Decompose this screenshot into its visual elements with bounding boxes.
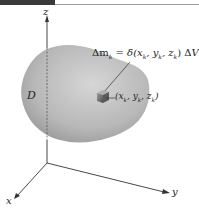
x-axis — [17, 163, 47, 196]
pt-part: ) — [155, 91, 159, 101]
mass-element-equation: Δmk = δ(xk, yk, zk) ΔV — [92, 47, 199, 60]
pt-part: , y — [127, 91, 138, 101]
eq-sub: k — [109, 53, 113, 60]
eq-delta-m: Δm — [92, 47, 109, 58]
y-axis — [47, 163, 164, 192]
region-label: D — [27, 89, 36, 102]
x-axis-label: x — [6, 195, 12, 206]
pt-part: , z — [141, 91, 151, 101]
solid-region-diagram — [0, 0, 199, 211]
y-arrow-icon — [162, 189, 170, 194]
point-label: (xk, yk, zk) — [115, 91, 158, 103]
pt-part: (x — [115, 91, 124, 101]
z-axis-label: z — [43, 6, 48, 17]
y-axis-label: y — [172, 186, 178, 197]
